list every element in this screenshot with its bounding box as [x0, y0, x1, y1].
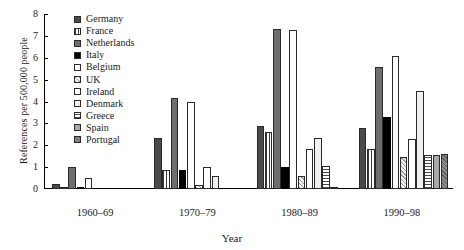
bar-netherlands-196069	[68, 167, 76, 189]
x-tick-label: 1970–79	[146, 207, 248, 218]
bar-italy-197079	[179, 170, 187, 189]
legend-item-netherlands: Netherlands	[74, 37, 134, 49]
legend-label: Germany	[86, 14, 123, 24]
x-tick-label: 1990–98	[351, 207, 453, 218]
bar-greece-199098	[424, 155, 432, 189]
legend-label: France	[86, 26, 113, 36]
bar-germany-199098	[359, 128, 367, 189]
bar-france-198089	[265, 132, 273, 189]
y-tick-label: 1	[33, 162, 38, 172]
y-tick-label: 0	[33, 184, 38, 194]
bar-ireland-199098	[408, 139, 416, 189]
legend-item-germany: Germany	[74, 13, 134, 25]
bar-group	[359, 14, 449, 189]
bar-ireland-198089	[306, 149, 314, 189]
bar-greece-198089	[322, 166, 330, 189]
legend-label: Portugal	[86, 135, 120, 145]
legend-label: Netherlands	[86, 38, 134, 48]
legend-item-uk: UK	[74, 73, 134, 85]
x-tick-label: 1980–89	[249, 207, 351, 218]
bar-italy-198089	[281, 167, 289, 189]
y-tick-label: 8	[33, 9, 38, 19]
bar-denmark-198089	[314, 138, 322, 189]
legend-item-ireland: Ireland	[74, 86, 134, 98]
y-tick-label: 6	[33, 53, 38, 63]
legend-item-portugal: Portugal	[74, 134, 134, 146]
bar-france-197079	[162, 170, 170, 189]
bar-spain-199098	[433, 155, 441, 189]
bar-belgium-196069	[85, 178, 93, 189]
legend-item-spain: Spain	[74, 122, 134, 134]
bar-chart: References per 500,000 people Year 01234…	[0, 0, 464, 250]
legend-swatch-icon	[74, 40, 81, 47]
y-tick-label: 2	[33, 140, 38, 150]
legend-item-greece: Greece	[74, 110, 134, 122]
y-tick-label: 3	[33, 118, 38, 128]
legend-item-italy: Italy	[74, 49, 134, 61]
bar-france-196069	[60, 187, 68, 189]
bar-germany-198089	[257, 126, 265, 189]
legend-label: Spain	[86, 123, 109, 133]
bar-belgium-197079	[187, 102, 195, 190]
bar-italy-199098	[383, 117, 391, 189]
bar-france-199098	[367, 149, 375, 189]
bar-group	[154, 14, 244, 189]
bar-italy-196069	[77, 187, 85, 189]
x-axis-label: Year	[0, 232, 464, 244]
legend-label: Denmark	[86, 99, 123, 109]
legend-label: Ireland	[86, 87, 114, 97]
bar-uk-197079	[195, 185, 203, 189]
bar-netherlands-198089	[273, 29, 281, 189]
bar-germany-197079	[154, 138, 162, 189]
bar-netherlands-199098	[375, 67, 383, 190]
y-tick-label: 7	[33, 31, 38, 41]
legend-label: Belgium	[86, 62, 120, 72]
legend-swatch-icon	[74, 16, 81, 23]
y-axis-ticks: 012345678	[0, 0, 44, 176]
legend-swatch-icon	[74, 136, 81, 143]
legend-swatch-icon	[74, 52, 81, 59]
bar-denmark-197079	[212, 176, 220, 189]
bar-uk-199098	[400, 157, 408, 189]
bar-ireland-197079	[203, 167, 211, 189]
legend-swatch-icon	[74, 88, 81, 95]
legend-item-france: France	[74, 25, 134, 37]
bar-group	[257, 14, 347, 189]
legend-item-denmark: Denmark	[74, 98, 134, 110]
bar-uk-198089	[298, 176, 306, 189]
bar-germany-196069	[52, 184, 60, 189]
y-tick-label: 5	[33, 75, 38, 85]
bar-netherlands-197079	[171, 98, 179, 189]
bar-belgium-198089	[289, 30, 297, 189]
legend-swatch-icon	[74, 124, 81, 131]
legend-swatch-icon	[74, 112, 81, 119]
legend-swatch-icon	[74, 76, 81, 83]
legend-item-belgium: Belgium	[74, 61, 134, 73]
bar-denmark-199098	[416, 91, 424, 189]
legend-label: Greece	[86, 111, 114, 121]
legend: GermanyFranceNetherlandsItalyBelgiumUKIr…	[74, 13, 134, 146]
bar-portugal-199098	[441, 154, 449, 189]
legend-label: UK	[86, 75, 100, 85]
bar-belgium-199098	[392, 56, 400, 189]
legend-swatch-icon	[74, 28, 81, 35]
bar-spain-198089	[330, 187, 338, 189]
legend-swatch-icon	[74, 100, 81, 107]
legend-label: Italy	[86, 50, 104, 60]
x-tick-label: 1960–69	[44, 207, 146, 218]
legend-swatch-icon	[74, 64, 81, 71]
y-tick-label: 4	[33, 97, 38, 107]
